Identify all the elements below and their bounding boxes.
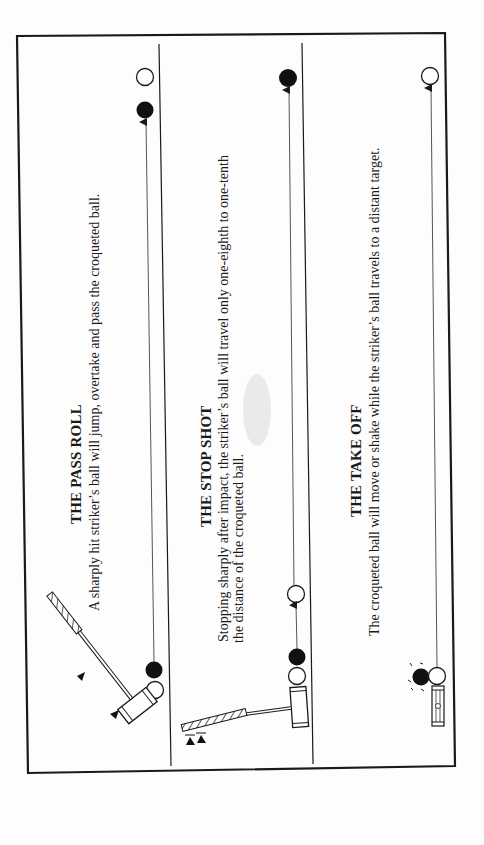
stop-shot-description-line2: the distance of the croqueted ball. — [231, 454, 246, 643]
path-arrow — [146, 122, 154, 662]
black-ball-icon — [289, 649, 306, 666]
divider-1 — [159, 44, 171, 766]
path-arrow-short — [296, 605, 297, 649]
path-arrow — [431, 88, 437, 667]
take-off-description: The croqueted ball will move or shake wh… — [367, 147, 382, 636]
stop-shot-title: THE STOP SHOT — [198, 405, 215, 527]
white-ball-icon — [289, 668, 306, 685]
striker-black-ball-icon — [137, 102, 154, 119]
hand-position-marker-icon — [185, 733, 206, 745]
hand-position-marker-icon — [77, 672, 85, 681]
scan-smudge — [243, 374, 271, 446]
pass-roll-description: A sharply hit striker’s ball will jump, … — [87, 194, 102, 611]
croqueted-white-ball-icon — [288, 586, 305, 603]
path-arrow-long — [289, 90, 294, 587]
take-off-title: THE TAKE OFF — [348, 404, 365, 517]
black-ball-icon — [146, 662, 163, 679]
target-white-ball-icon — [137, 69, 154, 86]
striker-black-ball-icon — [279, 69, 297, 87]
mallet-head-icon — [432, 686, 444, 726]
croqueted-black-ball-icon — [413, 669, 430, 686]
stop-shot-description-line1: Stopping sharply after impact, the strik… — [216, 155, 231, 642]
striker-white-ball-icon — [429, 668, 446, 685]
target-white-ball-icon — [422, 68, 439, 85]
croquet-shots-page: THE PASS ROLL A sharply hit striker’s ba… — [0, 0, 484, 845]
pass-roll-title: THE PASS ROLL — [68, 404, 85, 524]
take-off-diagram — [408, 68, 446, 727]
mallet-icon — [181, 687, 309, 732]
hand-position-marker-icon — [110, 710, 119, 719]
frame-border — [17, 33, 455, 773]
